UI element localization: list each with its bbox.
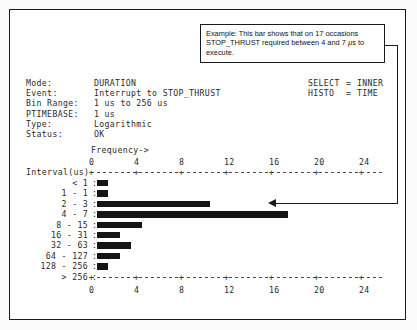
meta-value: DURATION — [94, 78, 136, 88]
callout-line-2-a: STOP_THRUST required between 4 and 7 — [206, 38, 348, 47]
meta-value: OK — [94, 129, 105, 139]
x-axis-ticklabels-top: 04812162024 — [91, 157, 381, 167]
x-tick-label: 12 — [224, 157, 235, 167]
screenshot-root: Example: This bar shows that on 17 occas… — [0, 0, 417, 330]
histogram-bar — [97, 263, 108, 269]
x-tick-label: 4 — [134, 285, 139, 295]
meta-row: SELECT=INNER — [308, 78, 383, 88]
x-axis-ticklabels-bottom: 04812162024 — [91, 285, 381, 295]
histogram-row: 8 - 15: — [26, 220, 386, 230]
interval-label: 32 - 63 — [26, 240, 88, 250]
histogram-row: 128 - 256: — [26, 261, 386, 271]
meta-value: 1 us — [94, 109, 115, 119]
meta-row: PTIMEBASE:1 us — [26, 109, 221, 119]
x-tick-label: 16 — [269, 157, 280, 167]
histogram-rows: < 1:1 - 1:2 - 3:4 - 7:8 - 15:16 - 31:32 … — [26, 178, 386, 282]
x-tick-label: 16 — [269, 285, 280, 295]
histogram-bar — [97, 190, 108, 196]
interval-label: 16 - 31 — [26, 230, 88, 240]
frequency-axis-label: Frequency-> — [91, 146, 149, 155]
callout-arrow-icon — [268, 199, 276, 207]
x-tick-label: 12 — [224, 285, 235, 295]
meta-key: Type: — [26, 119, 94, 129]
interval-label: 64 - 127 — [26, 251, 88, 261]
histogram-bar — [97, 253, 120, 259]
histogram-bar — [97, 242, 131, 248]
meta-row: Type:Logarithmic — [26, 119, 221, 129]
interval-label: 2 - 3 — [26, 199, 88, 209]
interval-axis-label: Interval(us) — [26, 167, 89, 177]
callout-line-2-b: s to — [352, 38, 364, 47]
x-axis-line-top: +++++++ — [91, 172, 383, 173]
meta-key: Event: — [26, 88, 94, 98]
histogram-bar — [97, 211, 288, 217]
histogram-row: 32 - 63: — [26, 240, 386, 250]
x-tick-label: 4 — [134, 157, 139, 167]
meta-row: HISTO=TIME — [308, 88, 383, 98]
callout-box: Example: This bar shows that on 17 occas… — [200, 24, 385, 63]
meta-value: INNER — [357, 78, 383, 88]
meta-block-right: SELECT=INNERHISTO=TIME — [308, 78, 383, 98]
callout-line-1: Example: This bar shows that on 17 occas… — [206, 29, 379, 38]
histogram-bar — [97, 180, 108, 186]
callout-line-2: STOP_THRUST required between 4 and 7 µs … — [206, 38, 379, 47]
x-tick-label: 20 — [314, 157, 325, 167]
meta-value: Interrupt to STOP_THRUST — [94, 88, 221, 98]
meta-row: Bin Range:1 us to 256 us — [26, 98, 221, 108]
histogram-bar — [97, 232, 120, 238]
histogram-row: 1 - 1: — [26, 188, 386, 198]
meta-key: Bin Range: — [26, 98, 94, 108]
meta-key: Status: — [26, 129, 94, 139]
meta-key: Mode: — [26, 78, 94, 88]
callout-line-3: execute. — [206, 48, 379, 57]
meta-value: Logarithmic — [94, 119, 152, 129]
meta-key: PTIMEBASE: — [26, 109, 94, 119]
meta-equals: = — [346, 88, 357, 98]
histogram-row: < 1: — [26, 178, 386, 188]
meta-value: TIME — [357, 88, 378, 98]
x-tick-label: 8 — [179, 157, 184, 167]
meta-row: Status:OK — [26, 129, 221, 139]
meta-value: 1 us to 256 us — [94, 98, 168, 108]
meta-key: SELECT — [308, 78, 346, 88]
histogram-bar — [97, 201, 210, 207]
interval-label: 8 - 15 — [26, 220, 88, 230]
histogram-bar — [97, 222, 142, 228]
x-tick-label: 20 — [314, 285, 325, 295]
meta-key: HISTO — [308, 88, 346, 98]
interval-label: 4 - 7 — [26, 209, 88, 219]
x-tick-label: 24 — [359, 285, 370, 295]
x-axis-line-bottom: +++++++ — [91, 277, 383, 278]
meta-row: Event:Interrupt to STOP_THRUST — [26, 88, 221, 98]
callout-connector-vertical — [397, 45, 398, 204]
x-tick-label: 8 — [179, 285, 184, 295]
meta-equals: = — [346, 78, 357, 88]
interval-label: < 1 — [26, 178, 88, 188]
histogram-row: 16 - 31: — [26, 230, 386, 240]
x-tick-label: 24 — [359, 157, 370, 167]
interval-label: > 256 — [26, 272, 88, 282]
meta-row: Mode:DURATION — [26, 78, 221, 88]
meta-block-left: Mode:DURATIONEvent:Interrupt to STOP_THR… — [26, 78, 221, 139]
interval-label: 1 - 1 — [26, 188, 88, 198]
callout-connector-bottom — [275, 203, 398, 204]
histogram-row: 64 - 127: — [26, 251, 386, 261]
x-tick-label: 0 — [89, 285, 94, 295]
x-tick-label: 0 — [89, 157, 94, 167]
histogram-row: 4 - 7: — [26, 209, 386, 219]
interval-label: 128 - 256 — [26, 261, 88, 271]
